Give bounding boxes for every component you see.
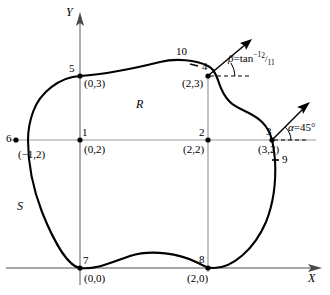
boundary-curve-s xyxy=(28,60,275,268)
figure-container: Y X R S 1 2 3 4 5 6 7 8 9 10 (0,2) (2,2)… xyxy=(0,0,330,295)
region-diagram-svg xyxy=(0,0,330,295)
curve-label-s: S xyxy=(17,200,23,212)
beta-exponent: −1 xyxy=(253,50,261,59)
point-marker-6 xyxy=(13,137,18,142)
point-number-8: 8 xyxy=(199,254,205,265)
point-coord-8: (2,0) xyxy=(187,273,208,284)
point-number-7: 7 xyxy=(83,255,89,266)
point-number-5: 5 xyxy=(69,63,75,74)
beta-angle-label: β=tan−12/11 xyxy=(228,51,275,66)
point-number-6: 6 xyxy=(6,133,12,144)
alpha-value: 45° xyxy=(300,121,315,133)
beta-function: tan xyxy=(240,52,253,64)
point-coord-5: (0,3) xyxy=(84,78,105,89)
point-coord-4: (2,3) xyxy=(182,78,203,89)
point-number-9: 9 xyxy=(282,154,288,165)
point-markers-group xyxy=(13,73,274,270)
point-marker-8 xyxy=(205,265,210,270)
y-axis-label: Y xyxy=(66,6,73,18)
point-coord-1: (0,2) xyxy=(84,144,105,155)
point-number-1: 1 xyxy=(82,127,88,138)
alpha-angle-label: α=45° xyxy=(288,122,315,133)
point-marker-5 xyxy=(77,73,82,78)
point-tick-10 xyxy=(190,64,198,66)
point-marker-7 xyxy=(77,265,82,270)
point-coord-3: (3,2) xyxy=(258,144,279,155)
x-axis-label: X xyxy=(308,272,315,284)
region-label-r: R xyxy=(136,98,143,110)
point-marker-2 xyxy=(205,137,210,142)
point-marker-1 xyxy=(77,137,82,142)
point-number-2: 2 xyxy=(199,127,205,138)
point-coord-6: (−1,2) xyxy=(18,149,45,160)
point-number-3: 3 xyxy=(266,126,272,137)
beta-denominator: 11 xyxy=(267,57,274,66)
point-number-10: 10 xyxy=(176,46,187,57)
beta-fraction: 2/11 xyxy=(261,54,275,64)
point-coord-7: (0,0) xyxy=(84,273,105,284)
point-coord-2: (2,2) xyxy=(183,144,204,155)
point-number-4: 4 xyxy=(202,61,208,72)
